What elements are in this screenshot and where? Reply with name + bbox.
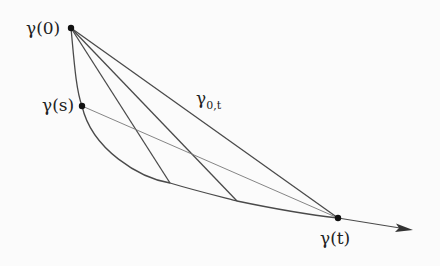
ray-to-curve-1 [71,28,170,183]
point-gamma-t [335,215,341,221]
label-gamma-0t: γ0,t [196,90,221,107]
point-gamma-0 [68,25,74,31]
chord-s-to-t [82,106,338,218]
tangent-line [338,218,400,228]
point-gamma-s [79,103,85,109]
diagram-canvas: γ(0) γ(s) γ(t) γ0,t [0,0,440,266]
geodesic-gamma-0t [71,28,338,218]
label-gamma-0t-main: γ [196,88,206,108]
label-gamma-t: γ(t) [320,230,350,247]
label-gamma-0t-subscript: 0,t [206,99,221,112]
geodesic-diagram [0,0,440,266]
label-gamma-0: γ(0) [26,20,60,37]
ray-to-curve-2 [71,28,237,201]
label-gamma-s: γ(s) [42,97,74,114]
